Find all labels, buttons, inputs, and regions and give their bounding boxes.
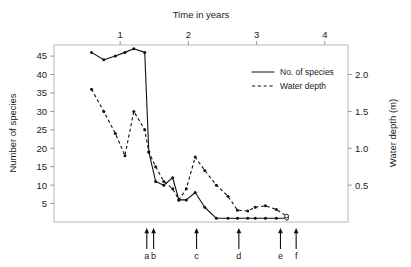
right-axis-ticks [348,75,352,186]
chart-figure: 1234 Time in years 51015202530354045 Num… [0,0,411,267]
y2-tick-label: 2.0 [355,69,368,80]
event-arrow-head-b [151,228,156,233]
event-arrow-label-c: c [194,251,199,261]
event-arrow-head-c [194,228,199,233]
y-tick-label: 25 [36,124,47,135]
y2-tick-label: 1.5 [355,106,368,117]
event-arrow-label-b: b [151,251,156,261]
event-arrow-label-e: e [278,251,283,261]
data-point [275,217,278,220]
left-axis-tick-labels: 51015202530354045 [36,50,47,209]
x-tick-label: 4 [322,29,327,40]
y-tick-label: 35 [36,87,47,98]
top-axis-tick-labels: 1234 [118,29,328,40]
right-axis-tick-labels: 0.51.01.52.0 [355,69,368,191]
data-point [246,209,249,212]
data-point [194,191,197,194]
data-point [185,187,188,190]
data-point [203,206,206,209]
data-point [123,154,126,157]
data-point [114,132,117,135]
legend-label-1: No. of species [280,67,334,77]
data-point [114,55,117,58]
data-point [215,217,218,220]
data-point [143,51,146,54]
data-point [154,180,157,183]
data-point [203,169,206,172]
y2-tick-label: 0.5 [355,180,368,191]
data-point [90,88,93,91]
data-point [215,184,218,187]
x-tick-label: 3 [254,29,259,40]
data-point [226,217,229,220]
data-point [246,217,249,220]
y-tick-label: 40 [36,69,47,80]
y-axis-title: Number of species [7,93,18,172]
data-point [264,217,267,220]
x-tick-label: 2 [186,29,191,40]
x-tick-label: 1 [118,29,123,40]
y2-tick-label: 1.0 [355,143,368,154]
y-tick-label: 5 [42,198,47,209]
data-point [102,58,105,61]
data-point [123,51,126,54]
data-point [162,184,165,187]
data-point [285,214,289,218]
event-arrow-label-d: d [236,251,241,261]
y-tick-label: 20 [36,143,47,154]
legend-label-2: Water depth [280,81,326,91]
data-point [177,198,180,201]
data-point [147,150,150,153]
event-arrow-head-e [278,228,283,233]
data-point [236,217,239,220]
data-point [171,187,174,190]
event-arrow-label-a: a [144,251,149,261]
x-axis-title: Time in years [173,9,230,20]
top-axis-ticks [120,41,325,45]
data-point [236,209,239,212]
data-point [254,206,257,209]
event-arrow-head-a [144,228,149,233]
event-arrow-head-d [236,228,241,233]
data-point [264,204,267,207]
event-arrow-annotations: abcdef [144,228,298,261]
data-point [275,208,278,211]
y-tick-label: 15 [36,161,47,172]
event-arrow-label-f: f [295,251,298,261]
y2-axis-title: Water depth (m) [387,99,398,167]
data-point [185,198,188,201]
data-point [132,47,135,50]
data-point [154,165,157,168]
data-point [143,128,146,131]
chart-legend: No. of speciesWater depth [252,67,334,91]
y-tick-label: 45 [36,50,47,61]
data-point [162,180,165,183]
data-point [171,176,174,179]
event-arrow-head-f [294,228,299,233]
data-point [132,110,135,113]
series-line-1 [92,49,287,219]
data-series-layer [90,47,288,220]
data-point [102,110,105,113]
data-point [90,51,93,54]
data-point [254,217,257,220]
species-water-depth-line-chart: 1234 Time in years 51015202530354045 Num… [0,0,411,267]
y-tick-label: 30 [36,106,47,117]
left-axis-ticks [50,56,54,204]
data-point [226,195,229,198]
data-point [194,156,197,159]
y-tick-label: 10 [36,180,47,191]
